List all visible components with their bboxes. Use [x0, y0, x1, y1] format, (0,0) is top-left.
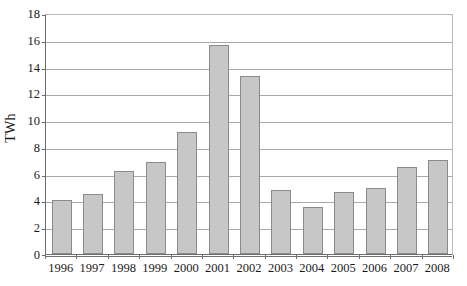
y-tick-label: 12 [28, 88, 41, 101]
x-tickmark [139, 255, 140, 259]
x-tick-label: 2003 [268, 262, 293, 275]
y-tick-label: 8 [34, 142, 40, 155]
x-tickmark [265, 255, 266, 259]
y-tick-label: 4 [34, 195, 40, 208]
x-tickmark [390, 255, 391, 259]
x-tick-label: 2002 [237, 262, 262, 275]
bar [334, 192, 354, 254]
x-tick-label: 1996 [48, 262, 73, 275]
bar [177, 132, 197, 254]
x-tick-label: 2005 [331, 262, 356, 275]
bar [114, 171, 134, 254]
y-axis-title-label: TWh [3, 113, 19, 143]
y-tick-label: 14 [28, 61, 41, 74]
x-tickmark [327, 255, 328, 259]
plot-area [45, 14, 453, 255]
bar [83, 194, 103, 254]
x-tickmark [453, 255, 454, 259]
x-tickmark [76, 255, 77, 259]
y-axis-tick-labels: 024681012141618 [18, 14, 40, 255]
y-tick-label: 16 [28, 35, 41, 48]
y-tick-label: 18 [28, 8, 41, 21]
x-tickmark [108, 255, 109, 259]
x-tick-label: 2007 [393, 262, 418, 275]
x-axis-tick-labels: 1996199719981999200020012002200320042005… [45, 262, 453, 282]
bar [240, 76, 260, 254]
x-tickmark [202, 255, 203, 259]
y-tick-label: 2 [34, 222, 40, 235]
bar [209, 45, 229, 254]
bar [146, 162, 166, 254]
x-tickmark [422, 255, 423, 259]
y-tick-label: 10 [28, 115, 41, 128]
x-tickmark [359, 255, 360, 259]
x-tick-label: 2001 [205, 262, 230, 275]
x-tick-label: 2006 [362, 262, 387, 275]
bar [397, 167, 417, 254]
bars-layer [46, 15, 452, 254]
y-tick-label: 0 [34, 249, 40, 262]
x-tick-label: 2008 [425, 262, 450, 275]
x-tick-label: 1997 [80, 262, 105, 275]
bar [366, 188, 386, 254]
x-tickmark [171, 255, 172, 259]
x-tickmark [45, 255, 46, 259]
x-tickmark [296, 255, 297, 259]
bar [428, 160, 448, 254]
x-tick-label: 2000 [174, 262, 199, 275]
bar [271, 190, 291, 254]
x-tickmark [233, 255, 234, 259]
x-tick-label: 2004 [299, 262, 324, 275]
bar-chart: TWh 024681012141618 19961997199819992000… [0, 0, 467, 286]
bar [303, 207, 323, 254]
y-tick-label: 6 [34, 168, 40, 181]
bar [52, 200, 72, 254]
x-tick-label: 1999 [142, 262, 167, 275]
x-tick-label: 1998 [111, 262, 136, 275]
